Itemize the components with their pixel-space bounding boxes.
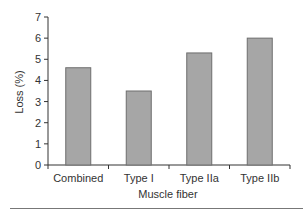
bar-type-iia [187, 53, 212, 165]
y-tick-label: 6 [35, 32, 41, 44]
y-tick-label: 5 [35, 53, 41, 65]
y-tick-label: 3 [35, 96, 41, 108]
x-tick-label: Type I [124, 172, 154, 184]
bars [66, 38, 273, 165]
bar-type-i [126, 91, 151, 165]
bar-type-iib [247, 38, 272, 165]
y-tick-label: 2 [35, 117, 41, 129]
bar-combined [66, 68, 91, 165]
y-axis: 01234567 [35, 11, 48, 171]
x-axis-title: Muscle fiber [138, 188, 198, 200]
x-tick-label: Type IIa [180, 172, 220, 184]
x-tick-label: Combined [53, 172, 103, 184]
y-axis-title: Loss (%) [13, 70, 25, 113]
y-tick-label: 0 [35, 159, 41, 171]
y-tick-label: 1 [35, 138, 41, 150]
x-axis: CombinedType IType IIaType IIb [48, 165, 290, 184]
y-tick-label: 7 [35, 11, 41, 23]
x-tick-label: Type IIb [240, 172, 279, 184]
y-tick-label: 4 [35, 74, 41, 86]
bottom-rule [10, 208, 303, 209]
bar-chart: 01234567 CombinedType IType IIaType IIb … [0, 0, 303, 212]
